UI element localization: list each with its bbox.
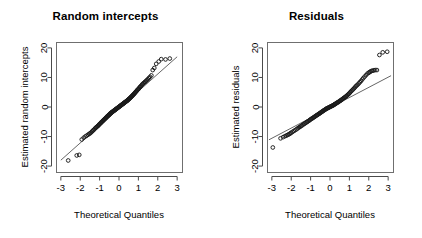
data-point xyxy=(385,50,389,54)
data-point xyxy=(159,57,163,61)
x-axis-tick-label: -2 xyxy=(76,182,84,193)
x-axis-tick-label: -1 xyxy=(306,182,314,193)
x-axis-tick-label: 0 xyxy=(116,182,121,193)
y-axis-tick-label: -10 xyxy=(250,130,261,144)
panel-residuals: Residuals -3-2-1012320100-10-20Theoretic… xyxy=(211,0,422,238)
panel-random-intercepts: Random intercepts -3-2-1012320100-10-20T… xyxy=(0,0,211,238)
y-axis-tick-label: 20 xyxy=(39,43,50,54)
x-axis-tick-label: 1 xyxy=(347,182,352,193)
y-axis-tick-label: 0 xyxy=(39,104,50,109)
y-axis-tick-label: 10 xyxy=(39,72,50,83)
y-axis-tick-label: 20 xyxy=(250,43,261,54)
data-point xyxy=(271,146,275,150)
y-axis-tick-label: -20 xyxy=(250,159,261,173)
x-axis-tick-label: -1 xyxy=(95,182,103,193)
y-axis-tick-label: -10 xyxy=(39,130,50,144)
data-point xyxy=(66,159,70,163)
x-axis-tick-label: 0 xyxy=(327,182,332,193)
y-axis-title: Estimated random intercepts xyxy=(19,46,30,167)
x-axis-tick-label: 2 xyxy=(155,182,160,193)
x-axis-tick-label: -3 xyxy=(57,182,65,193)
x-axis-tick-label: 3 xyxy=(175,182,180,193)
x-axis-tick-label: 1 xyxy=(136,182,141,193)
x-axis-title: Theoretical Quantiles xyxy=(285,209,375,220)
data-point xyxy=(378,53,382,57)
scatter-plot-random-intercepts: -3-2-1012320100-10-20Theoretical Quantil… xyxy=(0,0,211,238)
data-point xyxy=(77,153,81,157)
x-axis-title: Theoretical Quantiles xyxy=(74,209,164,220)
y-axis-tick-label: 10 xyxy=(250,72,261,83)
qq-plot-figure: Random intercepts -3-2-1012320100-10-20T… xyxy=(0,0,422,238)
x-axis-tick-label: 2 xyxy=(366,182,371,193)
data-point xyxy=(164,58,168,62)
data-point xyxy=(381,50,385,54)
y-axis-title: Estimated residuals xyxy=(230,65,241,148)
scatter-plot-residuals: -3-2-1012320100-10-20Theoretical Quantil… xyxy=(211,0,422,238)
y-axis-tick-label: -20 xyxy=(39,159,50,173)
data-point xyxy=(168,57,172,61)
x-axis-tick-label: -3 xyxy=(268,182,276,193)
y-axis-tick-label: 0 xyxy=(250,104,261,109)
x-axis-tick-label: -2 xyxy=(287,182,295,193)
x-axis-tick-label: 3 xyxy=(386,182,391,193)
